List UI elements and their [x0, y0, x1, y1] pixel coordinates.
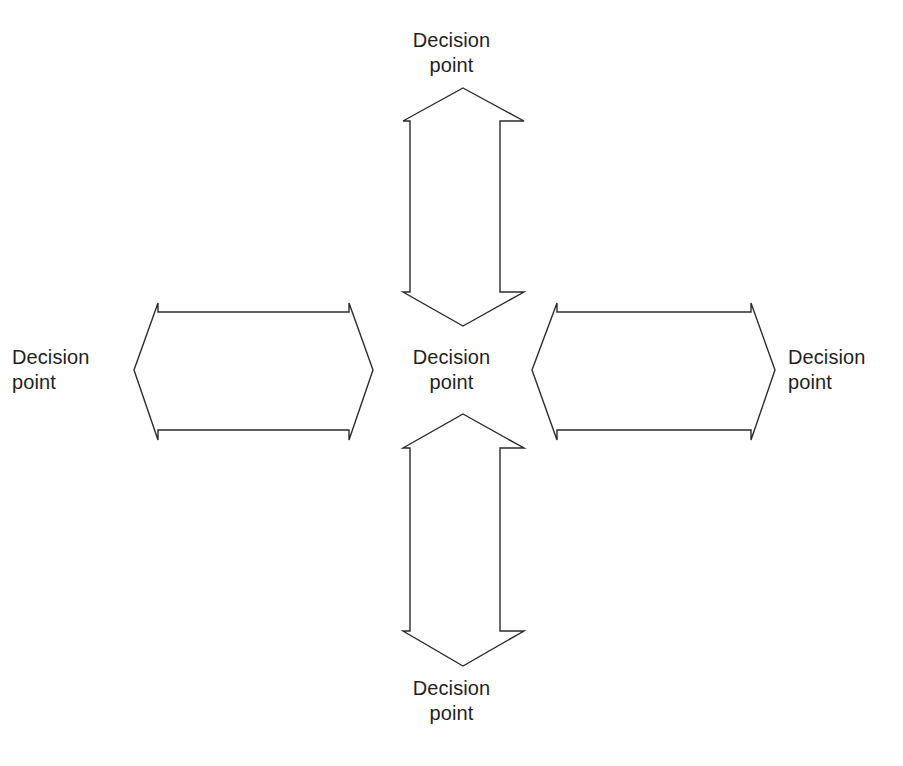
diagram-root: Decision point Decision point Decision p… — [0, 0, 903, 766]
decision-point-label-center: Decision point — [0, 345, 903, 395]
double-headed-vertical-arrow-upper — [403, 88, 524, 326]
decision-point-label-top: Decision point — [0, 28, 903, 78]
double-headed-vertical-arrow-lower — [403, 414, 524, 666]
decision-point-label-left: Decision point — [12, 345, 132, 395]
decision-point-label-right: Decision point — [788, 345, 903, 395]
decision-point-label-bottom: Decision point — [0, 676, 903, 726]
